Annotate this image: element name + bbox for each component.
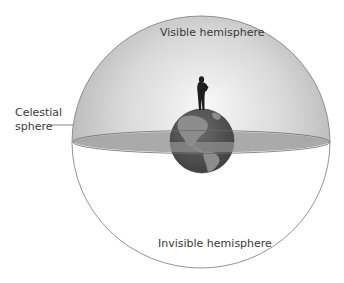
invisible-hemisphere-label: Invisible hemisphere	[158, 237, 272, 251]
celestial-sphere-label-line2: sphere	[15, 120, 75, 134]
visible-hemisphere-label: Visible hemisphere	[160, 26, 264, 40]
celestial-sphere-label-line1: Celestial	[15, 106, 75, 120]
horizon-plane-front	[73, 142, 330, 152]
earth-icon	[170, 109, 234, 173]
celestial-sphere-label: Celestial sphere	[15, 106, 75, 134]
